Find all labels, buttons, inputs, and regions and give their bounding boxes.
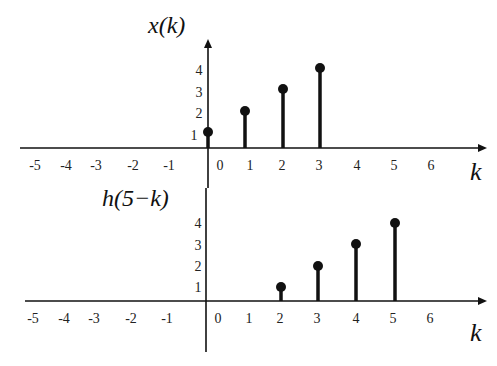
bottom-xtick: -2 [125, 311, 137, 326]
top-y-arrow-icon [204, 39, 212, 48]
bottom-xtick: -1 [161, 311, 173, 326]
bottom-xtick: 3 [314, 311, 321, 326]
top-xtick: 1 [247, 158, 254, 173]
bottom-xtick: -4 [58, 311, 70, 326]
top-stems [203, 63, 325, 148]
top-xtick: 4 [354, 158, 361, 173]
top-xtick: 3 [316, 158, 323, 173]
bottom-xtick: 4 [353, 311, 360, 326]
top-xlabel: k [470, 157, 482, 186]
bottom-xtick: -5 [27, 311, 39, 326]
top-xtick: -3 [90, 158, 102, 173]
top-xtick: 6 [428, 158, 435, 173]
stem-plots: x(k) k 1 2 3 4 -5 -4 -3 -2 -1 0 1 2 3 4 … [0, 0, 497, 366]
bottom-xtick: 1 [246, 311, 253, 326]
bottom-ytick: 3 [195, 238, 202, 253]
top-xtick: 2 [279, 158, 286, 173]
bottom-xtick: 6 [427, 311, 434, 326]
bottom-plot: h(5−k) k 1 2 3 4 -5 -4 -3 -2 -1 0 1 2 3 … [25, 185, 487, 352]
bottom-xtick: -3 [88, 311, 100, 326]
top-title: x(k) [147, 12, 185, 38]
top-ytick: 3 [196, 85, 203, 100]
bottom-ytick: 4 [195, 216, 202, 231]
top-ytick: 1 [191, 128, 198, 143]
bottom-title: h(5−k) [102, 185, 169, 211]
bottom-x-arrow-icon [478, 297, 487, 305]
top-ytick: 4 [196, 63, 203, 78]
top-xtick: -2 [127, 158, 139, 173]
bottom-ytick: 1 [195, 280, 202, 295]
bottom-stems [276, 218, 400, 301]
bottom-xtick: 0 [215, 311, 222, 326]
bottom-ytick: 2 [195, 259, 202, 274]
bottom-xlabel: k [470, 318, 482, 347]
top-xtick: 0 [217, 158, 224, 173]
top-ytick: 2 [196, 106, 203, 121]
top-xtick: -5 [29, 158, 41, 173]
bottom-xtick: 5 [390, 311, 397, 326]
top-x-arrow-icon [478, 144, 487, 152]
top-xtick: -1 [163, 158, 175, 173]
top-xtick: -4 [60, 158, 72, 173]
top-xtick: 5 [391, 158, 398, 173]
bottom-xtick: 2 [277, 311, 284, 326]
top-plot: x(k) k 1 2 3 4 -5 -4 -3 -2 -1 0 1 2 3 4 … [20, 12, 487, 188]
